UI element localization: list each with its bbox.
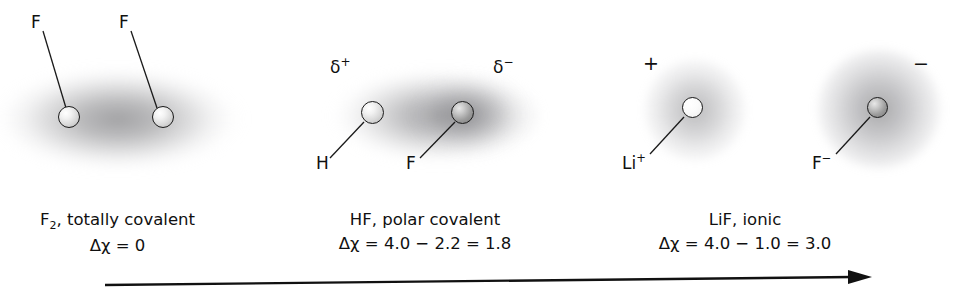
caption-lif: LiF, ionic Δχ = 4.0 − 1.0 = 3.0 [620, 208, 870, 256]
delta-symbol-minus: δ [493, 57, 503, 77]
atom-label-f2-left: F [31, 14, 41, 31]
charge-label-delta-minus: δ− [493, 56, 513, 76]
caption-hf-line1: HF, polar covalent [350, 210, 500, 229]
caption-f2: F2, totally covalent Δχ = 0 [0, 208, 235, 258]
atom-f2-right [152, 106, 174, 128]
leader-lines [0, 0, 953, 306]
lithium-ion-base: Li [622, 153, 636, 173]
atom-f2-left [58, 106, 80, 128]
atom-label-hf-hydrogen: H [316, 155, 329, 172]
atom-label-f2-right: F [119, 14, 129, 31]
atom-label-fluoride-ion: F− [812, 153, 831, 172]
caption-lif-line2: Δχ = 4.0 − 1.0 = 3.0 [620, 232, 870, 256]
delta-symbol-plus: δ [330, 57, 340, 77]
caption-f2-text: , totally covalent [56, 210, 195, 229]
fluoride-ion-base: F [812, 153, 822, 173]
delta-sign-plus: + [340, 55, 350, 69]
caption-hf: HF, polar covalent Δχ = 4.0 − 2.2 = 1.8 [300, 208, 550, 256]
electron-cloud-hf [310, 62, 542, 170]
atom-fluoride-ion [867, 97, 888, 118]
lithium-ion-charge: + [636, 151, 646, 165]
atom-hf-fluorine [451, 101, 474, 124]
atom-label-lithium-ion: Li+ [622, 153, 646, 172]
charge-label-plus: + [643, 54, 659, 73]
atom-label-hf-fluorine: F [406, 155, 416, 172]
atom-lithium-ion [682, 97, 703, 118]
charge-label-delta-plus: δ+ [330, 56, 350, 76]
caption-lif-line1: LiF, ionic [709, 210, 782, 229]
bond-polarity-figure: F F H F Li+ F− δ+ δ− + − F2, totally cov… [0, 0, 953, 306]
fluoride-ion-charge: − [822, 151, 832, 165]
electron-cloud-f2 [0, 58, 254, 180]
caption-hf-line2: Δχ = 4.0 − 2.2 = 1.8 [300, 232, 550, 256]
charge-label-minus: − [913, 54, 929, 73]
caption-f2-line2: Δχ = 0 [0, 234, 235, 258]
delta-sign-minus: − [503, 55, 513, 69]
atom-hf-hydrogen [361, 101, 384, 124]
caption-f2-line1: F2, totally covalent [40, 210, 195, 229]
